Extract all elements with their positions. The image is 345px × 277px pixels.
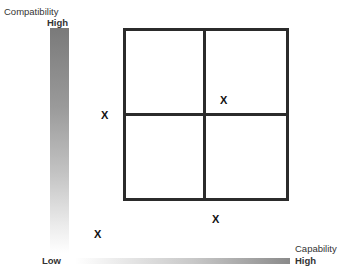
marker-x: X xyxy=(212,214,219,225)
x-axis-gradient-bar xyxy=(75,258,290,264)
marker-x: X xyxy=(220,95,227,106)
x-axis-title: Capability xyxy=(295,243,337,254)
x-axis-low-label: Low xyxy=(42,255,61,266)
marker-x: X xyxy=(94,229,101,240)
y-axis-title: Compatibility xyxy=(4,6,58,17)
y-axis-gradient-bar xyxy=(50,28,69,253)
marker-x: X xyxy=(101,110,108,121)
y-axis-high-label: High xyxy=(47,17,68,28)
x-axis-high-label: High xyxy=(295,255,316,266)
matrix-horizontal-divider xyxy=(123,113,289,116)
